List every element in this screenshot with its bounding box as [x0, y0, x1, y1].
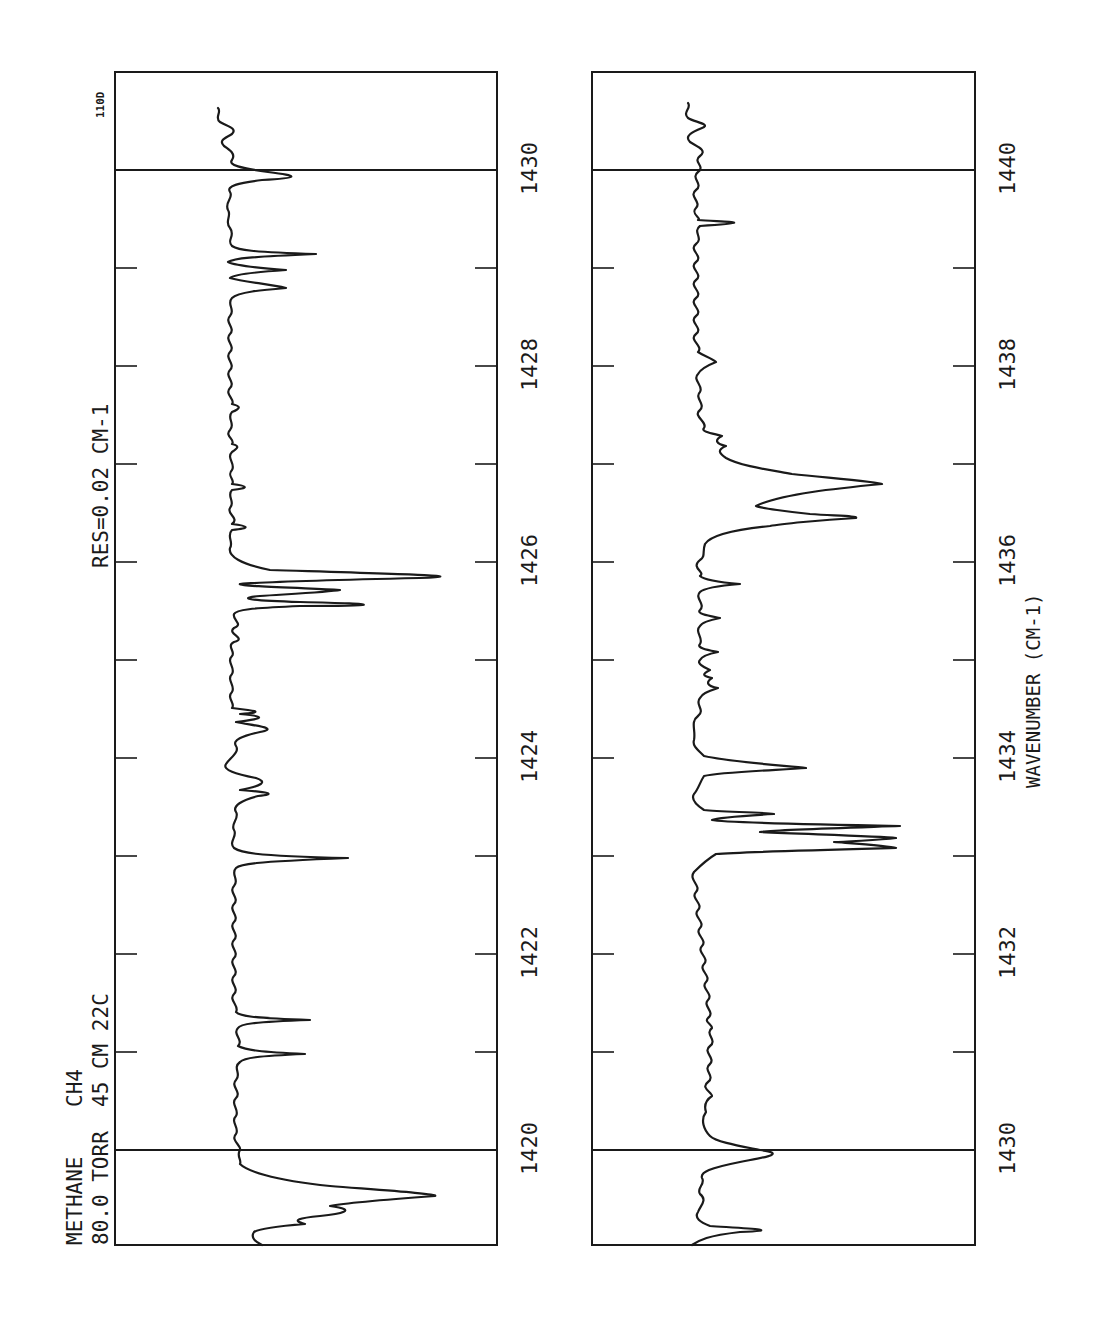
x-axis-title: WAVENUMBER (CM-1)	[1022, 594, 1044, 788]
upper-tick-labels: 1430 1428 1426 1424 1422 1420	[517, 142, 542, 1175]
sample-name-label: METHANE	[63, 1156, 87, 1245]
upper-ticks	[115, 268, 497, 1052]
lower-tick-label-1430: 1430	[995, 1122, 1020, 1175]
upper-tick-label-1422: 1422	[517, 926, 542, 979]
upper-tick-label-1428: 1428	[517, 338, 542, 391]
upper-panel-frame	[115, 72, 497, 1245]
lower-tick-label-1432: 1432	[995, 926, 1020, 979]
lower-tick-label-1436: 1436	[995, 534, 1020, 587]
upper-tick-label-1420: 1420	[517, 1122, 542, 1175]
spectrum-figure: 1430 1428 1426 1424 1422 1420 METHANE CH…	[0, 0, 1100, 1331]
lower-panel-frame	[592, 72, 975, 1245]
lower-tick-label-1434: 1434	[995, 730, 1020, 783]
plot-id-label: 110D	[94, 91, 107, 118]
path-temp-label: 45 CM 22C	[89, 993, 113, 1107]
upper-panel	[115, 72, 497, 1245]
lower-tick-label-1440: 1440	[995, 142, 1020, 195]
upper-tick-label-1430: 1430	[517, 142, 542, 195]
lower-tick-labels: 1440 1438 1436 1434 1432 1430	[995, 142, 1020, 1175]
lower-tick-label-1438: 1438	[995, 338, 1020, 391]
formula-label: CH4	[63, 1069, 87, 1107]
pressure-label: 80.0 TORR	[89, 1131, 113, 1245]
lower-ticks	[592, 268, 975, 1052]
upper-tick-label-1424: 1424	[517, 730, 542, 783]
lower-spectrum-trace	[686, 103, 900, 1245]
upper-spectrum-trace	[218, 108, 441, 1245]
resolution-label: RES=0.02 CM-1	[89, 404, 113, 568]
lower-panel	[592, 72, 975, 1245]
upper-tick-label-1426: 1426	[517, 534, 542, 587]
